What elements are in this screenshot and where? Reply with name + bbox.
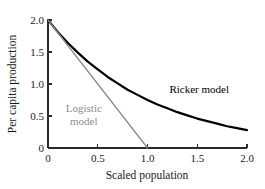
annotation-logistic-model-line2: model [70,115,98,127]
y-tick-label-2: 1.0 [30,78,44,90]
y-tick-label-1: 0.5 [30,110,44,122]
y-axis-title: Per capita production [6,35,19,134]
y-axis-ticks [48,20,52,148]
y-tick-label-4: 2.0 [30,14,44,26]
x-tick-label-1: 0.5 [91,152,105,164]
x-tick-label-3: 1.5 [190,152,204,164]
x-axis-title: Scaled population [106,169,189,182]
series-line-logistic-model [48,20,148,148]
chart-canvas: 0 0.5 1.0 1.5 2.0 0 0.5 1.0 1.5 2.0 Scal… [0,0,265,189]
y-tick-label-3: 1.5 [30,46,44,58]
annotation-logistic-model-line1: Logistic [66,102,102,114]
x-tick-label-4: 2.0 [240,152,254,164]
x-tick-label-2: 1.0 [141,152,155,164]
y-tick-label-0: 0 [39,142,45,154]
x-tick-label-0: 0 [45,152,51,164]
annotation-ricker-model: Ricker model [169,83,229,95]
chart-figure: 0 0.5 1.0 1.5 2.0 0 0.5 1.0 1.5 2.0 Scal… [0,0,265,189]
